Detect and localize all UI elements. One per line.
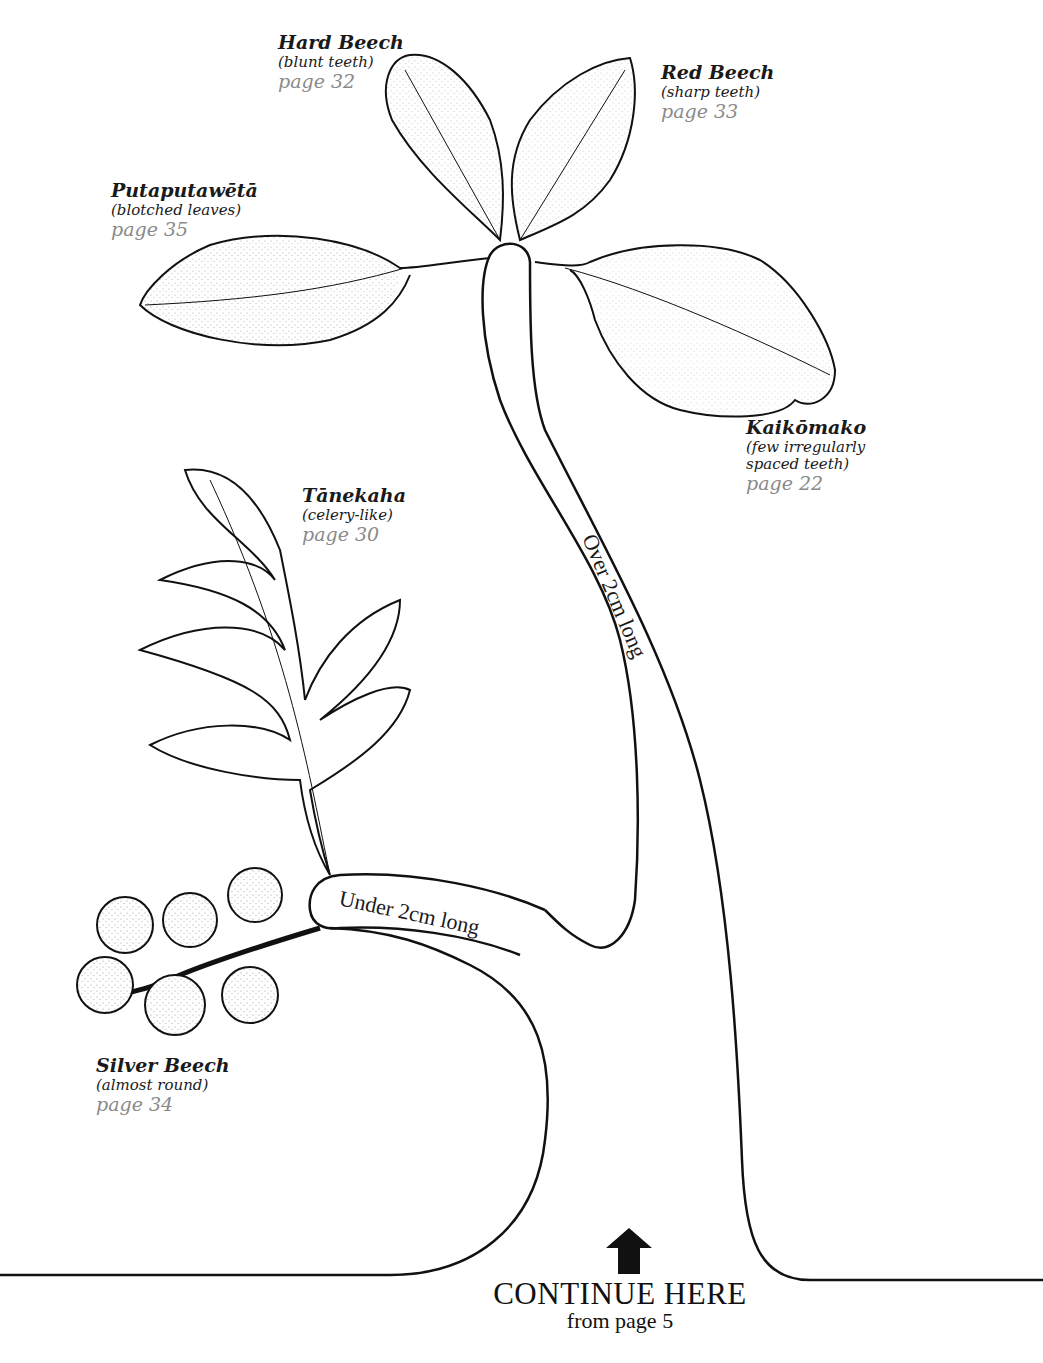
putaputaweta-page-ref: page 35: [111, 219, 258, 241]
kaikomako-page-ref: page 22: [746, 473, 866, 495]
trunk-outline: [0, 262, 1043, 1280]
putaputaweta-label: Putaputawētā (blotched leaves) page 35: [111, 180, 258, 241]
hard-beech-page-ref: page 32: [278, 71, 404, 93]
continue-subtitle: from page 5: [440, 1309, 800, 1333]
tanekaha-label: Tānekaha (celery-like) page 30: [302, 485, 406, 546]
tanekaha-page-ref: page 30: [302, 524, 406, 546]
putaputaweta-leaf: [140, 236, 490, 345]
silver-beech-label: Silver Beech (almost round) page 34: [96, 1055, 230, 1116]
kaikomako-label: Kaikōmako (few irregularly spaced teeth)…: [746, 417, 866, 495]
red-beech-leaf: [512, 58, 635, 240]
continue-title: CONTINUE HERE: [440, 1278, 800, 1309]
red-beech-label: Red Beech (sharp teeth) page 33: [661, 62, 774, 123]
up-arrow-icon: [606, 1228, 652, 1274]
kaikomako-leaf: [535, 245, 835, 416]
red-beech-page-ref: page 33: [661, 101, 774, 123]
under-2cm-label: Under 2cm long: [337, 885, 482, 939]
silver-beech-sprig: [77, 868, 320, 1035]
silver-beech-page-ref: page 34: [96, 1094, 230, 1116]
over-2cm-label: Over 2cm long: [577, 530, 652, 661]
hard-beech-label: Hard Beech (blunt teeth) page 32: [278, 32, 404, 93]
continue-here-marker: CONTINUE HERE from page 5: [440, 1278, 800, 1333]
